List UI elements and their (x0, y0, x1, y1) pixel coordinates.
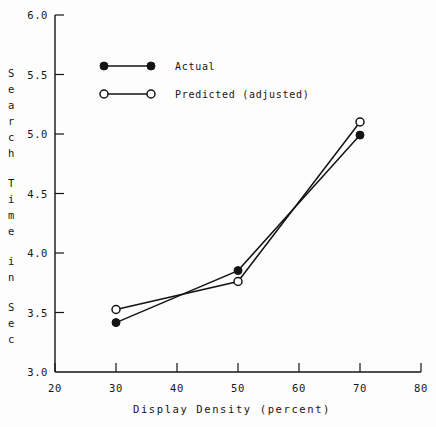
y-axis-label-char: m (8, 209, 14, 221)
y-axis-label-char: a (8, 99, 14, 111)
chart-figure: 6.0 5.5 5.0 4.5 4.0 3.5 3.0 20 30 40 50 … (0, 0, 436, 427)
y-axis-label-char: e (8, 83, 14, 95)
legend-marker-open-circle-right (147, 90, 155, 98)
y-tick-label-3-5: 3.5 (27, 307, 48, 319)
y-tick-label-5-0: 5.0 (27, 128, 48, 140)
y-tick-label-4-0: 4.0 (27, 247, 48, 259)
y-axis-label: S e a r c h T i m e i n S e c (8, 67, 15, 345)
legend-marker-filled-circle-right (147, 62, 155, 70)
y-axis-label-char: S (8, 301, 14, 313)
data-point-predicted-70 (356, 118, 364, 126)
data-point-predicted-30 (112, 306, 120, 314)
y-axis-label-char: r (8, 115, 14, 127)
legend-marker-filled-circle-left (100, 62, 108, 70)
data-point-predicted-50 (234, 278, 242, 286)
data-point-actual-50 (234, 267, 242, 275)
y-tick-label-3-0: 3.0 (27, 366, 48, 378)
series-actual (112, 131, 364, 327)
data-point-actual-70 (356, 131, 364, 139)
series-predicted-adjusted (112, 118, 364, 314)
x-tick-label-70: 70 (353, 382, 367, 394)
x-axis-tick-labels: 20 30 40 50 60 70 80 (48, 382, 428, 394)
legend-label-predicted-adjusted: Predicted (adjusted) (175, 89, 309, 100)
x-tick-label-20: 20 (48, 382, 62, 394)
y-axis-label-char: i (8, 255, 14, 267)
legend-item-actual: Actual (100, 61, 215, 72)
x-tick-label-60: 60 (292, 382, 306, 394)
series-line-actual (116, 135, 360, 323)
y-axis-label-char: c (8, 333, 14, 345)
y-axis-label-char: T (8, 177, 15, 189)
y-axis-label-char: h (8, 147, 14, 159)
legend-marker-open-circle-left (100, 90, 108, 98)
y-tick-label-5-5: 5.5 (27, 69, 48, 81)
legend-label-actual: Actual (175, 61, 215, 72)
x-tick-label-30: 30 (109, 382, 123, 394)
x-axis-label: Display Density (percent) (133, 403, 331, 415)
y-axis-label-char: n (8, 271, 14, 283)
x-tick-label-80: 80 (414, 382, 428, 394)
line-chart-canvas: 6.0 5.5 5.0 4.5 4.0 3.5 3.0 20 30 40 50 … (0, 0, 436, 427)
y-axis-label-char: i (8, 193, 14, 205)
y-axis-label-char: e (8, 317, 14, 329)
y-tick-label-4-5: 4.5 (27, 188, 48, 200)
x-tick-label-50: 50 (231, 382, 245, 394)
y-axis-label-char: e (8, 225, 14, 237)
legend-item-predicted-adjusted: Predicted (adjusted) (100, 89, 309, 100)
y-axis-tick-labels: 6.0 5.5 5.0 4.5 4.0 3.5 3.0 (27, 9, 48, 378)
y-axis-label-char: c (8, 131, 14, 143)
chart-legend: Actual Predicted (adjusted) (100, 61, 309, 100)
y-tick-label-6-0: 6.0 (27, 9, 48, 21)
axis-lines (55, 15, 421, 372)
x-tick-label-40: 40 (170, 382, 184, 394)
y-axis-label-char: S (8, 67, 14, 79)
y-axis-ticks (55, 15, 64, 313)
x-axis-ticks (55, 363, 421, 372)
data-point-actual-30 (112, 319, 120, 327)
